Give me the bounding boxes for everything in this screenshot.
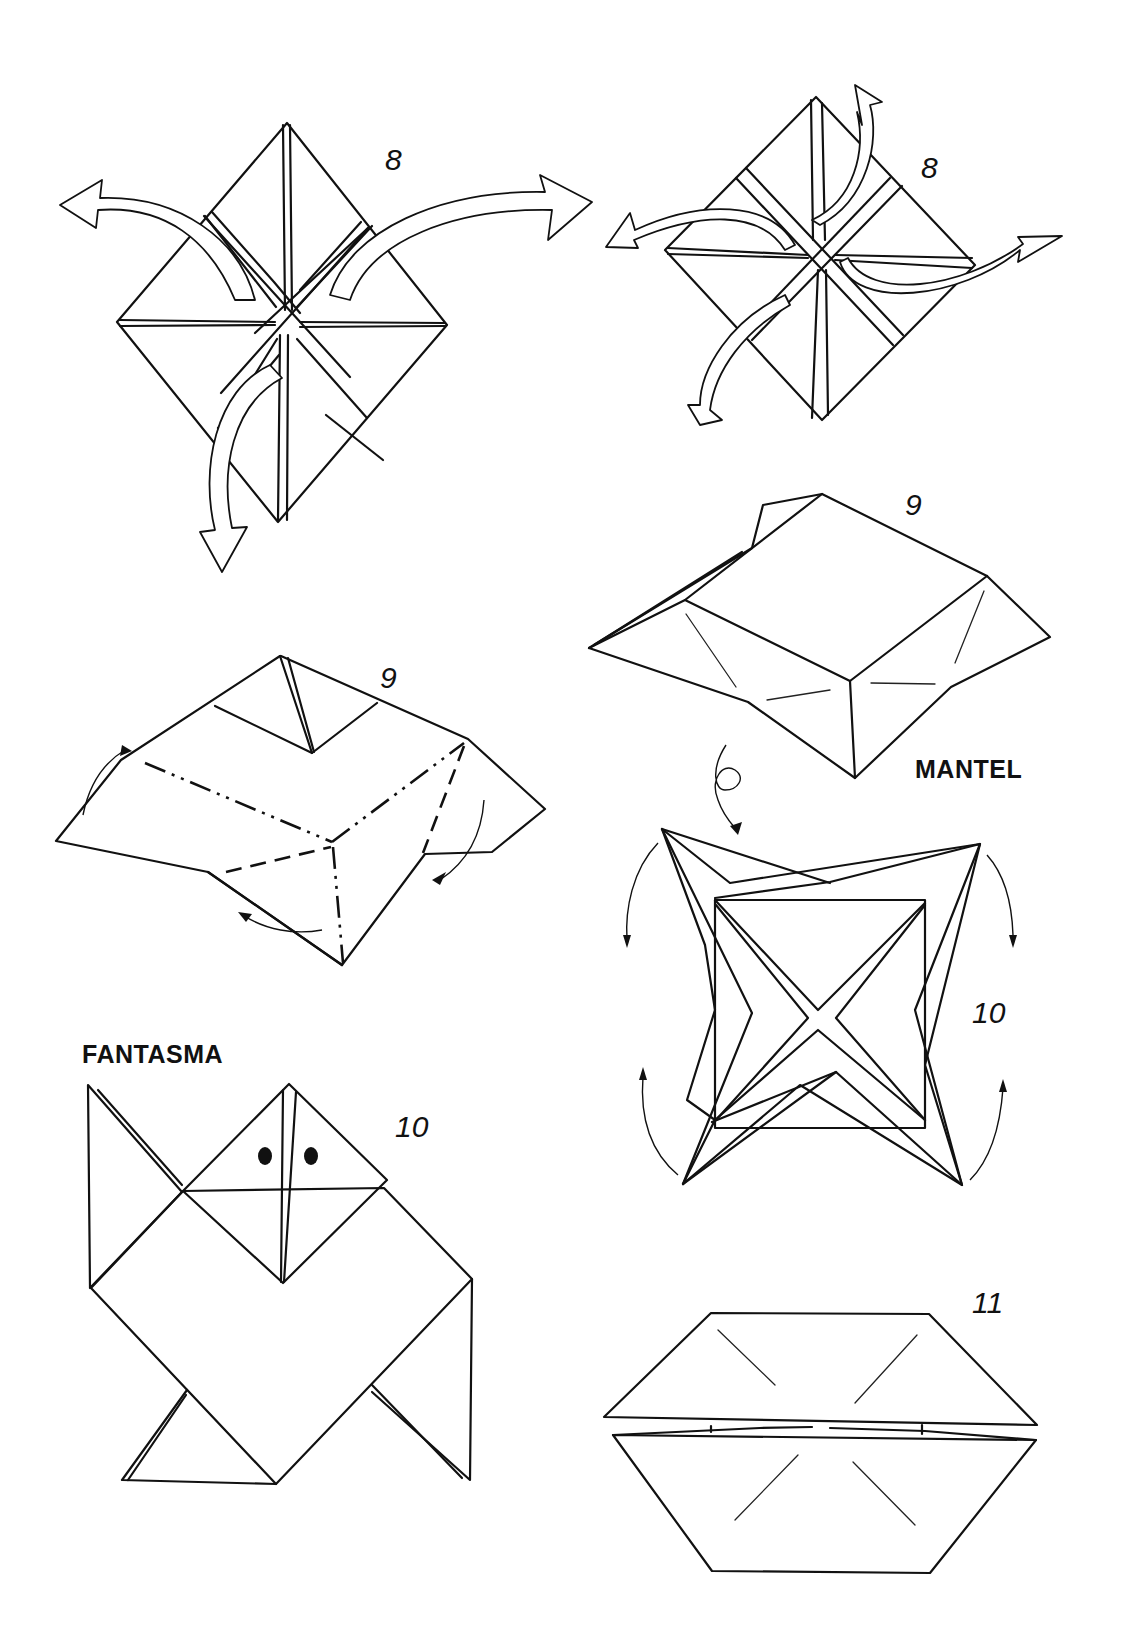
fold-arrow-head (432, 872, 446, 885)
step-label: 8 (385, 143, 402, 176)
fold-arrow-head (639, 1067, 647, 1080)
step-label: 11 (972, 1286, 1003, 1319)
fig-8-left: 8 (60, 123, 592, 572)
loop-arrow-icon (715, 745, 742, 835)
fold-arrow-head (623, 935, 631, 948)
ghost-eye-right (304, 1147, 318, 1165)
hollow-curved-arrow-icon (330, 175, 592, 300)
step-label: 10 (972, 996, 1006, 1029)
hollow-curved-arrow-icon (688, 295, 790, 425)
ghost-eye-left (258, 1147, 272, 1165)
origami-instructions-sheet: 8 8 9 (0, 0, 1123, 1635)
step-label: 10 (395, 1110, 429, 1143)
model-title-mantel: MANTEL (915, 755, 1022, 783)
step-label: 9 (905, 488, 922, 521)
hollow-curved-arrow-icon (840, 236, 1062, 293)
fold-arrow-head (1009, 935, 1017, 948)
fig-9-left: 9 (56, 656, 545, 965)
fig-11: 11 (604, 1286, 1037, 1573)
hollow-curved-arrow-icon (606, 209, 795, 250)
hollow-curved-arrow-icon (200, 365, 282, 572)
fig-10-fantasma: FANTASMA 10 (82, 1040, 472, 1484)
fold-arrow-head (999, 1079, 1007, 1092)
fold-arrow-head (238, 912, 252, 922)
fig-10-mantel: 10 (623, 829, 1017, 1185)
fig-8-right: 8 (606, 85, 1062, 425)
model-title-fantasma: FANTASMA (82, 1040, 223, 1068)
step-label: 8 (921, 151, 938, 184)
fig-9-mantel: 9 MANTEL (589, 488, 1050, 783)
step-label: 9 (380, 661, 397, 694)
